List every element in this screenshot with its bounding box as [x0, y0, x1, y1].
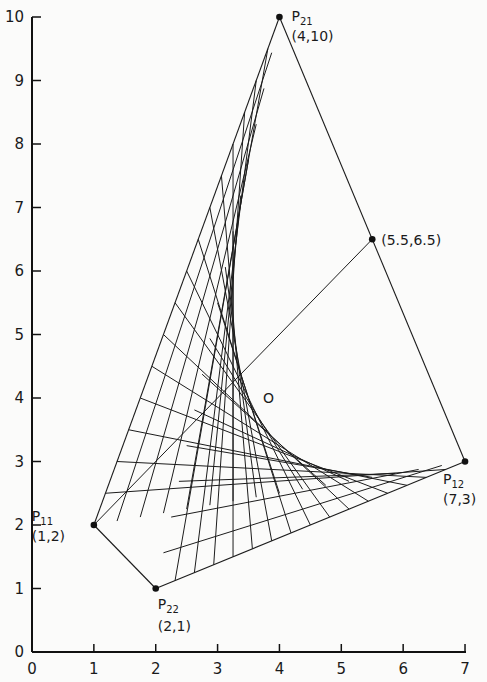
point-name-p22: P22: [158, 596, 179, 615]
y-tick-label: 1: [14, 580, 24, 598]
y-tick-label: 5: [14, 326, 24, 344]
point-coords-p11: (1,2): [32, 528, 65, 544]
point-marker-p22: [152, 585, 159, 592]
ruled-surface-diagram: 012345678910 01234567 P11(1,2)P12(7,3)P2…: [0, 0, 487, 682]
point-marker-p21: [276, 14, 283, 21]
y-tick-label: 10: [5, 8, 24, 26]
y-tick-label: 4: [14, 389, 24, 407]
point-marker-p11: [91, 522, 98, 529]
outline-segment: [94, 17, 280, 525]
y-tick-label: 0: [14, 643, 24, 661]
y-tick-label: 7: [14, 199, 24, 217]
axes: [32, 17, 466, 652]
outline-segment: [94, 525, 156, 589]
point-name-p11: P11: [32, 508, 53, 527]
x-tick-label: 6: [398, 660, 408, 678]
x-ticks: 01234567: [27, 644, 470, 678]
x-tick-label: 7: [460, 660, 470, 678]
x-tick-label: 2: [151, 660, 161, 678]
ruling-line: [163, 465, 441, 552]
y-tick-label: 9: [14, 72, 24, 90]
ruling-lines: [105, 49, 445, 581]
point-marker-p12: [462, 458, 469, 465]
ruling-line: [198, 239, 291, 533]
y-tick-label: 2: [14, 516, 24, 534]
y-tick-label: 8: [14, 135, 24, 153]
point-name-p12: P12: [443, 471, 464, 490]
point-coords-p22: (2,1): [158, 618, 191, 634]
y-tick-label: 3: [14, 453, 24, 471]
ruling-line: [194, 81, 256, 573]
point-marker-m: [369, 236, 376, 243]
y-ticks: 012345678910: [5, 8, 41, 661]
point-name-p21: P21: [291, 8, 312, 27]
outline-segments: [94, 17, 465, 589]
x-tick-label: 5: [337, 660, 347, 678]
point-coords-p21: (4,10): [291, 28, 333, 44]
y-tick-label: 6: [14, 262, 24, 280]
x-tick-label: 0: [27, 660, 37, 678]
point-coords-m: (5.5,6.5): [381, 232, 441, 248]
center-label-o: O: [263, 390, 274, 406]
x-tick-label: 4: [275, 660, 285, 678]
x-tick-label: 1: [89, 660, 99, 678]
point-coords-p12: (7,3): [443, 491, 476, 507]
x-tick-label: 3: [213, 660, 223, 678]
